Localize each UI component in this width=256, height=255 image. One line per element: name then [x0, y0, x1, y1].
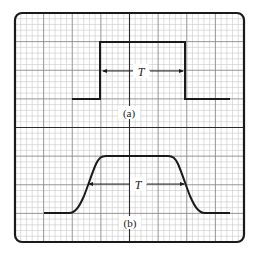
oscilloscope-figure: T (a) T (b) — [0, 0, 256, 255]
graticule-grid — [15, 13, 244, 242]
arrowhead-left-icon — [102, 69, 107, 73]
panel-label-b: (b) — [124, 217, 137, 230]
panel-a: T (a) — [72, 42, 230, 120]
arrowhead-right-icon — [179, 69, 184, 73]
panel-label-a: (a) — [123, 107, 136, 120]
